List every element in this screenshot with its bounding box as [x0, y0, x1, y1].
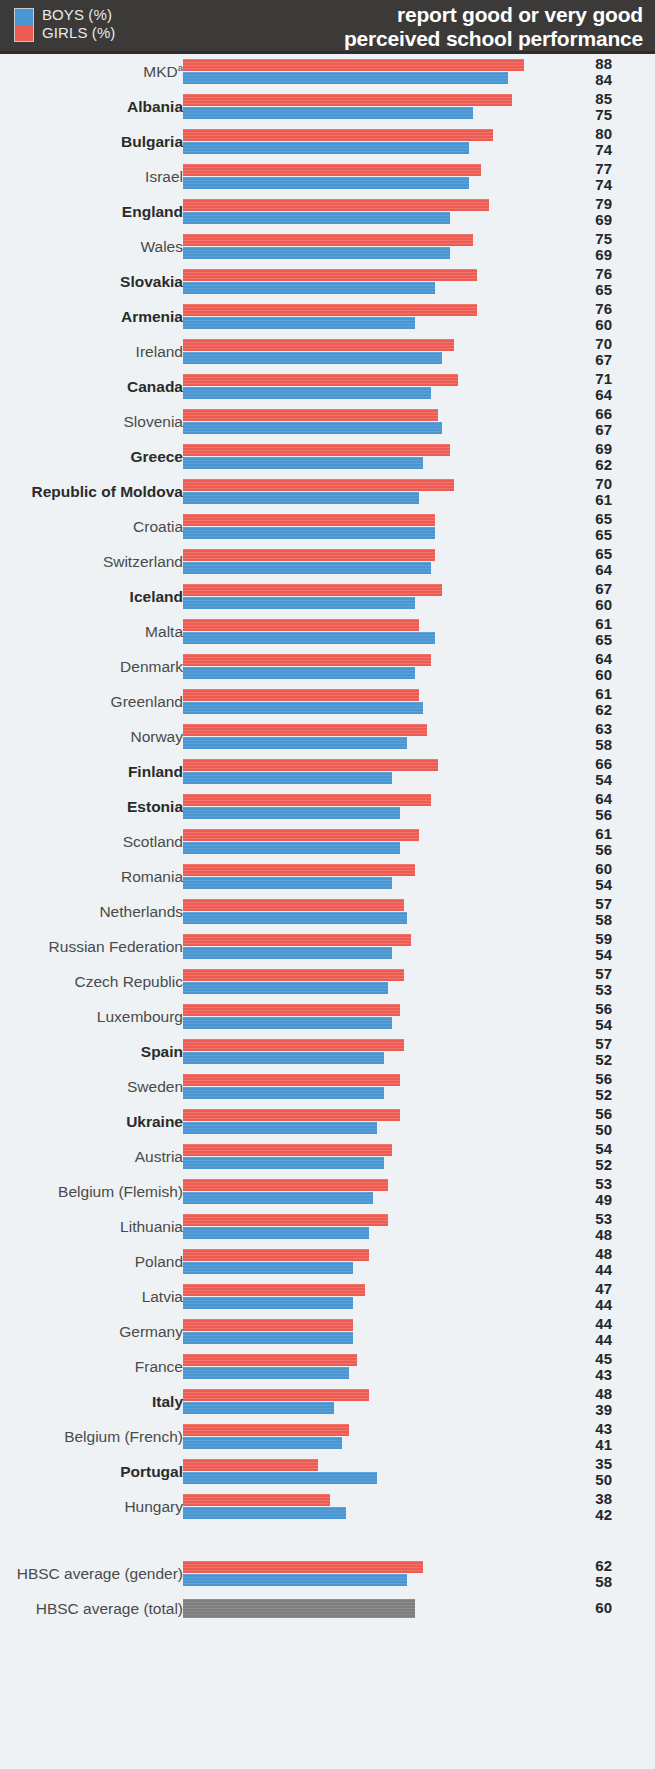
value-boys: 62 [560, 457, 612, 472]
value-group: 8575 [560, 91, 612, 122]
bar-girls [183, 1039, 404, 1051]
country-label: Scotland [123, 824, 183, 859]
value-boys: 41 [560, 1437, 612, 1452]
table-row: Switzerland6564 [0, 544, 655, 579]
table-row: Scotland6156 [0, 824, 655, 859]
table-row: Poland4844 [0, 1244, 655, 1279]
table-row: Belgium (Flemish)5349 [0, 1174, 655, 1209]
bar-girls [183, 374, 458, 386]
table-row: Bulgaria8074 [0, 124, 655, 159]
bar-boys [183, 1332, 353, 1344]
bar-group [183, 1388, 543, 1416]
value-boys: 65 [560, 282, 612, 297]
bar-group [183, 1178, 543, 1206]
bar-boys [183, 807, 400, 819]
value-boys: 75 [560, 107, 612, 122]
bar-boys [183, 1437, 342, 1449]
bar-girls [183, 409, 438, 421]
value-girls: 69 [560, 441, 612, 456]
bar-boys [183, 1574, 407, 1586]
value-girls: 71 [560, 371, 612, 386]
bar-girls [183, 479, 454, 491]
value-boys: 52 [560, 1087, 612, 1102]
bar-group [183, 828, 543, 856]
table-row: Malta6165 [0, 614, 655, 649]
value-girls: 70 [560, 336, 612, 351]
bar-boys [183, 772, 392, 784]
bar-boys [183, 982, 388, 994]
value-group: 4844 [560, 1246, 612, 1277]
table-row: Slovenia6667 [0, 404, 655, 439]
value-girls: 75 [560, 231, 612, 246]
value-boys: 67 [560, 422, 612, 437]
country-label: Luxembourg [97, 999, 183, 1034]
value-girls: 60 [560, 861, 612, 876]
value-group: 5348 [560, 1211, 612, 1242]
country-label: Finland [128, 754, 183, 789]
legend-swatch-boys [15, 9, 33, 25]
bar-boys [183, 422, 442, 434]
value-boys: 60 [560, 317, 612, 332]
bar-boys [183, 72, 508, 84]
value-girls: 56 [560, 1001, 612, 1016]
value-girls: 76 [560, 301, 612, 316]
bar-boys [183, 317, 415, 329]
value-girls: 43 [560, 1421, 612, 1436]
bar-group [183, 303, 543, 331]
value-boys: 54 [560, 947, 612, 962]
bar-group [183, 863, 543, 891]
value-girls: 76 [560, 266, 612, 281]
bar-group [183, 1213, 543, 1241]
bar-girls [183, 619, 419, 631]
country-label: Lithuania [120, 1209, 183, 1244]
value-group: 6165 [560, 616, 612, 647]
bar-girls [183, 1424, 349, 1436]
table-row: Italy4839 [0, 1384, 655, 1419]
legend-label-boys: BOYS (%) [42, 6, 115, 24]
bar-girls [183, 129, 493, 141]
bar-girls [183, 1354, 357, 1366]
table-row: Germany4444 [0, 1314, 655, 1349]
bar-boys [183, 212, 450, 224]
country-label: MKDa [143, 54, 183, 89]
country-label: England [122, 194, 183, 229]
bar-boys [183, 387, 431, 399]
bar-girls [183, 94, 512, 106]
table-row: Portugal3550 [0, 1454, 655, 1489]
bar-boys [183, 632, 435, 644]
table-row: Slovakia7665 [0, 264, 655, 299]
country-label: Italy [152, 1384, 183, 1419]
country-label: Poland [135, 1244, 183, 1279]
bar-girls [183, 1144, 392, 1156]
country-label: HBSC average (gender) [17, 1556, 183, 1591]
value-boys: 60 [560, 667, 612, 682]
bar-group [183, 1493, 543, 1521]
value-boys: 42 [560, 1507, 612, 1522]
bar-group [183, 688, 543, 716]
bar-boys [183, 1507, 346, 1519]
table-row: Hungary3842 [0, 1489, 655, 1524]
bar-girls [183, 724, 427, 736]
value-group: 5452 [560, 1141, 612, 1172]
value-girls: 66 [560, 756, 612, 771]
value-boys: 69 [560, 247, 612, 262]
value-group: 7665 [560, 266, 612, 297]
bar-group [183, 618, 543, 646]
value-group: 6258 [560, 1558, 612, 1589]
value-group: 7067 [560, 336, 612, 367]
bar-boys [183, 562, 431, 574]
bar-total [183, 1599, 415, 1618]
value-group: 60 [560, 1600, 612, 1615]
bar-boys [183, 1297, 353, 1309]
country-label: Spain [141, 1034, 183, 1069]
value-boys: 44 [560, 1332, 612, 1347]
bar-boys [183, 142, 469, 154]
value-boys: 43 [560, 1367, 612, 1382]
bar-boys [183, 247, 450, 259]
bar-boys [183, 527, 435, 539]
bar-girls [183, 1494, 330, 1506]
bar-boys [183, 877, 392, 889]
bar-boys [183, 912, 407, 924]
value-girls: 70 [560, 476, 612, 491]
bar-group [183, 443, 543, 471]
